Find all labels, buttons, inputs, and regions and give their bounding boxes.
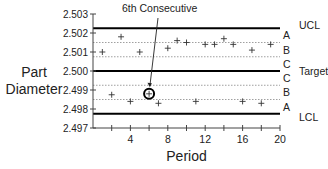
data-point-marker — [258, 100, 264, 106]
y-axis-label-line-2: Diameter — [0, 81, 68, 98]
data-point-marker — [184, 40, 190, 46]
target-label: Target — [299, 65, 328, 77]
data-point-marker — [268, 41, 274, 47]
y-tick-label: 2.501 — [63, 47, 88, 58]
zone-label: C — [283, 58, 291, 70]
y-axis-label-line-1: Part — [0, 64, 68, 81]
zone-label: B — [283, 86, 290, 98]
data-point-marker — [146, 91, 152, 97]
y-axis-label: Part Diameter — [0, 64, 68, 98]
data-point-marker — [109, 92, 115, 98]
data-point-marker — [137, 49, 143, 55]
zone-label: C — [283, 72, 291, 84]
data-point-marker — [249, 47, 255, 53]
zone-label: A — [283, 101, 290, 113]
annotation-label: 6th Consecutive — [122, 2, 197, 14]
x-tick-label: 4 — [127, 133, 133, 145]
ucl-label: UCL — [299, 19, 320, 31]
x-tick-label: 12 — [199, 133, 211, 145]
zone-label: A — [283, 29, 290, 41]
data-point-marker — [193, 98, 199, 104]
x-tick-label: 20 — [274, 133, 286, 145]
data-point-marker — [118, 34, 124, 40]
lcl-label: LCL — [299, 111, 318, 123]
y-tick-label: 2.497 — [63, 123, 88, 134]
x-axis-label: Period — [93, 148, 280, 164]
data-point-marker — [99, 49, 105, 55]
x-tick-label: 16 — [237, 133, 249, 145]
y-tick-label: 2.502 — [63, 28, 88, 39]
data-point-marker — [155, 100, 161, 106]
zone-label: B — [283, 44, 290, 56]
data-point-marker — [221, 36, 227, 42]
data-point-marker — [165, 45, 171, 51]
y-tick-label: 2.498 — [63, 104, 88, 115]
y-tick-label: 2.503 — [63, 9, 88, 20]
x-tick-label: 8 — [165, 133, 171, 145]
